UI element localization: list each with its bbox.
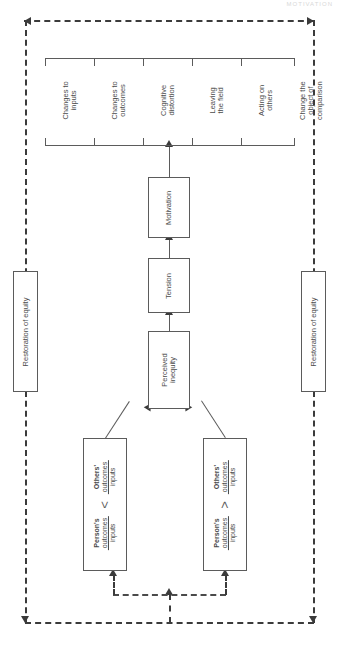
responses-rail-lower bbox=[45, 145, 295, 146]
responses-tick-upper-3 bbox=[143, 58, 144, 66]
response-label-changes-to-inputs: Changes to inputs bbox=[62, 60, 79, 140]
response-label-acting-on-others: Acting on others bbox=[258, 60, 275, 140]
perceived-inequity-label: Perceived inequity bbox=[161, 333, 178, 407]
inequity-source-riser bbox=[169, 594, 171, 623]
responses-tick-lower-5 bbox=[241, 138, 242, 146]
responses-tick-lower-1 bbox=[45, 138, 46, 146]
response-label-leaving-the-field: Leaving the field bbox=[209, 60, 226, 140]
responses-tick-upper-1 bbox=[45, 58, 46, 66]
restoration-of-equity-label-left: Restoration of equity bbox=[21, 274, 29, 389]
others-label-over: Others' bbox=[213, 459, 221, 493]
others-inputs-over: inputs bbox=[228, 459, 237, 493]
comparison-box-under-reward: Person's outcomes inputs < Others' outco… bbox=[83, 438, 127, 571]
responses-tick-lower-6 bbox=[294, 138, 295, 146]
response-label-changes-to-outcomes: Changes to outcomes bbox=[111, 60, 128, 140]
responses-tick-upper-4 bbox=[192, 58, 193, 66]
connector-inequity-to-tension bbox=[169, 313, 170, 331]
page-header-fragment: MOTIVATION bbox=[287, 1, 333, 7]
comparison-split-bar bbox=[113, 594, 226, 596]
motivation-box: Motivation bbox=[148, 177, 190, 238]
person-label-under: Person's bbox=[93, 515, 101, 549]
feedback-loop-left bbox=[25, 20, 27, 314]
responses-tick-lower-2 bbox=[94, 138, 95, 146]
comparison-expression-under-reward: Person's outcomes inputs < Others' outco… bbox=[93, 459, 117, 549]
person-outcomes-under: outcomes bbox=[101, 515, 109, 549]
tension-label: Tension bbox=[165, 260, 173, 312]
comparison-box-over-reward: Person's outcomes inputs > Others' outco… bbox=[203, 438, 247, 571]
others-ratio-over: Others' outcomes inputs bbox=[213, 459, 237, 493]
restoration-of-equity-label-right: Restoration of equity bbox=[309, 274, 317, 389]
connector-over-to-inequity bbox=[201, 401, 226, 438]
figure-canvas: MOTIVATION Person's outcomes inputs < bbox=[0, 0, 339, 659]
restoration-of-equity-box-left: Restoration of equity bbox=[13, 271, 38, 392]
restoration-of-equity-box-right: Restoration of equity bbox=[301, 271, 326, 392]
operator-under-reward: < bbox=[98, 501, 112, 509]
responses-tick-upper-5 bbox=[241, 58, 242, 66]
feedback-loop-left-lower bbox=[25, 391, 27, 623]
connector-under-to-inequity bbox=[105, 401, 130, 438]
comparison-split-left-riser bbox=[113, 575, 115, 595]
person-label-over: Person's bbox=[213, 515, 221, 549]
motivation-label: Motivation bbox=[165, 179, 173, 237]
responses-rail-upper bbox=[45, 58, 295, 59]
comparison-split-right-riser bbox=[225, 575, 227, 595]
connector-tension-to-motivation bbox=[169, 238, 170, 258]
feedback-loop-right-lower bbox=[313, 391, 315, 623]
person-inputs-under: inputs bbox=[108, 515, 117, 549]
others-label-under: Others' bbox=[93, 459, 101, 493]
responses-tick-upper-6 bbox=[294, 58, 295, 66]
others-ratio-under: Others' outcomes inputs bbox=[93, 459, 117, 493]
person-outcomes-over: outcomes bbox=[221, 515, 229, 549]
feedback-loop-top bbox=[24, 20, 314, 22]
others-outcomes-over: outcomes bbox=[221, 459, 229, 493]
person-ratio-over: Person's outcomes inputs bbox=[213, 515, 237, 549]
person-inputs-over: inputs bbox=[228, 515, 237, 549]
response-label-cognitive-distortion: Cognitive distortion bbox=[160, 60, 177, 140]
responses-tick-upper-2 bbox=[94, 58, 95, 66]
operator-over-reward: > bbox=[218, 501, 232, 509]
responses-tick-lower-3 bbox=[143, 138, 144, 146]
response-label-change-object-of-comparison: Change the object of comparison bbox=[299, 61, 324, 141]
connector-motivation-to-responses bbox=[169, 145, 170, 177]
responses-tick-lower-4 bbox=[192, 138, 193, 146]
person-ratio-under: Person's outcomes inputs bbox=[93, 515, 117, 549]
others-inputs-under: inputs bbox=[108, 459, 117, 493]
comparison-expression-over-reward: Person's outcomes inputs > Others' outco… bbox=[213, 459, 237, 549]
tension-box: Tension bbox=[148, 258, 190, 313]
perceived-inequity-box: Perceived inequity bbox=[148, 331, 190, 409]
others-outcomes-under: outcomes bbox=[101, 459, 109, 493]
